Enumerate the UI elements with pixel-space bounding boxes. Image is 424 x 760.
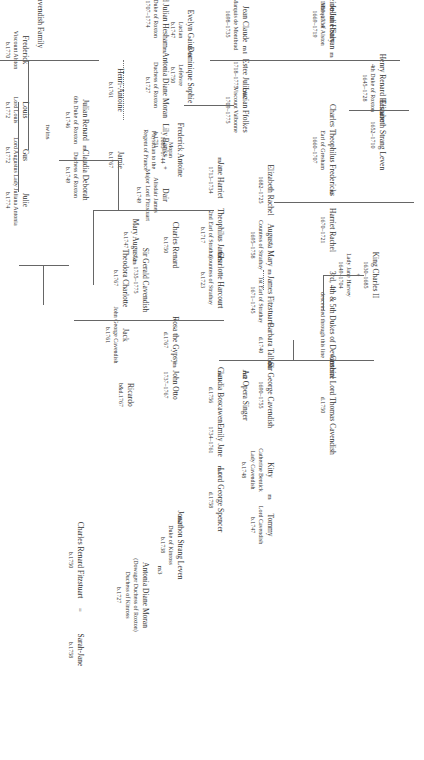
person-detail: Lady Juliana Antonia (12, 174, 21, 225)
person-detail: 1660–1707 (311, 104, 320, 196)
connector (94, 210, 214, 211)
person-name: Julian Renard (81, 96, 90, 144)
person-detail: b.1758 (67, 634, 76, 667)
person-detail: d.1756 (207, 367, 216, 423)
person-name: Mary Augusta (131, 219, 140, 262)
person-frederick: FrederickViscount Alstonb.1770 (4, 31, 30, 69)
person-estee-julie: Estee Julie1718–1775 (232, 59, 249, 91)
person-claudia-deborah: Claudia DeborahDuchess of Roxtonb.1749 (64, 149, 90, 200)
person-detail: John George Cavendish (112, 306, 121, 363)
person-detail: Duke of Kinross (167, 510, 176, 579)
person-harriet-rachel: Harriet Rachel1670–1721 (319, 208, 336, 252)
person-name: Madeleine-Julie Salvan (328, 0, 337, 49)
person-detail: Lady Cavendish (249, 448, 258, 492)
person-detail: b.1727 (115, 558, 124, 631)
person-name: Evelyn Gaius (186, 10, 195, 51)
person-dair: DairAlisdair JamesMajor Lord Fitzstuartb… (135, 169, 169, 221)
connector (118, 160, 119, 210)
marriage-mark: m (171, 362, 179, 367)
person-theodora: Theodora Charlotteb.1767 (112, 249, 129, 308)
person-name: Jean Claude (241, 0, 250, 50)
person-henri-antoine: Henri-Antoineb.1761 (107, 68, 124, 112)
person-jean-claude: Jean ClaudeMarquis de Montbrad1698–1735 (224, 0, 250, 50)
person-antonia-dowager: Antonia Diane Moran(Dowager Duchess of R… (115, 558, 149, 631)
connector (19, 265, 69, 266)
person-detail: b.1761 (107, 68, 116, 112)
person-detail: Lucian (177, 10, 186, 51)
person-name: General Lord Thomas Cavendish (328, 355, 337, 455)
person-detail: d.1767 (162, 316, 171, 364)
person-detail: Duchess of Roxton (72, 149, 81, 200)
person-name: Rosa the Gypsy (171, 316, 180, 364)
person-tommy: TommyLord Cavendishb.1747 (249, 506, 275, 545)
person-name: Antonia Diane Moran (141, 558, 150, 631)
person-name: Ricardo (126, 383, 135, 407)
person-detail: 1718–1775 (232, 59, 241, 91)
person-charles-renard-fitz: Charles Renard Fitzstuartb.1750 (67, 522, 84, 599)
person-detail: 1737–1767 (162, 370, 171, 399)
person-detail: 1709–1775 (224, 87, 233, 132)
person-charles-theophilus: Charles Theophilus FredericksEarl of Gre… (311, 104, 337, 196)
marriage-mark: m (328, 189, 336, 194)
person-name: Charles Theophilus Fredericks (328, 104, 337, 196)
person-name: Augusta Mary (266, 220, 275, 270)
person-detail: Alisdair James (152, 169, 161, 221)
person-name: Claudia Deborah (81, 149, 90, 200)
person-detail: b.1770 (4, 31, 13, 69)
person-detail: 1690–1755 (257, 362, 266, 428)
person-detail: b.1749 (135, 169, 144, 221)
person-james-fitzstuart: James Fitzstuart1st Earl of Strathay1671… (249, 276, 275, 325)
person-detail: b.1746 (64, 96, 73, 144)
connector (28, 60, 29, 150)
connector (293, 340, 294, 360)
person-detail: b&d.1767 (117, 383, 126, 407)
person-detail: Catherine Bentick (257, 448, 266, 492)
person-name: Kitty (266, 448, 275, 492)
person-name: Charlotte Harcourt (216, 252, 225, 308)
person-detail: 5th Duke of Roxton (152, 0, 161, 48)
marriage-mark: m1 (266, 361, 274, 370)
connector (0, 60, 99, 61)
family-tree-canvas: The Cavendish FamilyHenry Renard Hesham4… (0, 0, 424, 760)
person-detail: 1713–1734 (207, 162, 216, 198)
marriage-mark: m1 (241, 46, 249, 55)
person-detail: Duchess of Kinross (124, 558, 133, 631)
person-emily-jane: Emily Jane1734–1761 (207, 423, 224, 457)
marriage-mark: m (161, 47, 169, 52)
person-name: Jane Harriet (216, 162, 225, 198)
person-name: Lily Banks (161, 123, 170, 156)
person-detail: b.1751 (152, 123, 161, 156)
connector (210, 60, 400, 61)
connector (184, 105, 234, 106)
person-name: Sir George Cavendish (266, 362, 275, 428)
person-jack: JackJohn George Cavendishb.1761 (104, 306, 130, 363)
marriage-mark: m (186, 52, 194, 57)
connector (274, 202, 414, 203)
person-detail: 1734–1761 (207, 423, 216, 457)
person-detail: Countess of Strathay (207, 252, 216, 308)
person-detail: b.1749 (64, 149, 73, 200)
person-madeleine: Madeleine-Julie Salvan1689–1734 (319, 0, 336, 49)
person-name: Emily Jane (216, 423, 225, 457)
marriage-mark: m (266, 269, 274, 274)
marriage-mark: + (161, 166, 169, 170)
person-evelyn-gaius: Evelyn GaiusLucianb.1747 (169, 10, 195, 51)
person-name: Harriet Rachel (328, 208, 337, 252)
person-detail: Major Lord Fitzstuart (144, 169, 153, 221)
person-name: Tommy (266, 506, 275, 545)
person-detail: b.1761 (104, 306, 113, 363)
person-detail: 1698–1735 (224, 0, 233, 50)
person-name: Lord George Spencer (216, 468, 225, 532)
connector (74, 320, 224, 321)
person-sir-george: Sir George Cavendish1690–1755 (257, 362, 274, 428)
person-detail: b.1750 (162, 222, 171, 268)
connector (219, 360, 374, 361)
person-rosa-gypsy: Rosa the Gypsyd.1767 (162, 316, 179, 364)
marriage-mark: m2 (241, 91, 249, 100)
person-name: Sir Gerald Cavendish (141, 248, 150, 313)
person-name: Charles Renard Fitzstuart (76, 522, 85, 599)
dotted-connector (123, 60, 124, 120)
person-john-otto: John Otto1737–1767 (162, 370, 179, 399)
person-detail: 1669–1719 (311, 2, 320, 46)
person-elizabeth-rachel: Elizabeth Rachel1682–1725 (257, 164, 274, 215)
